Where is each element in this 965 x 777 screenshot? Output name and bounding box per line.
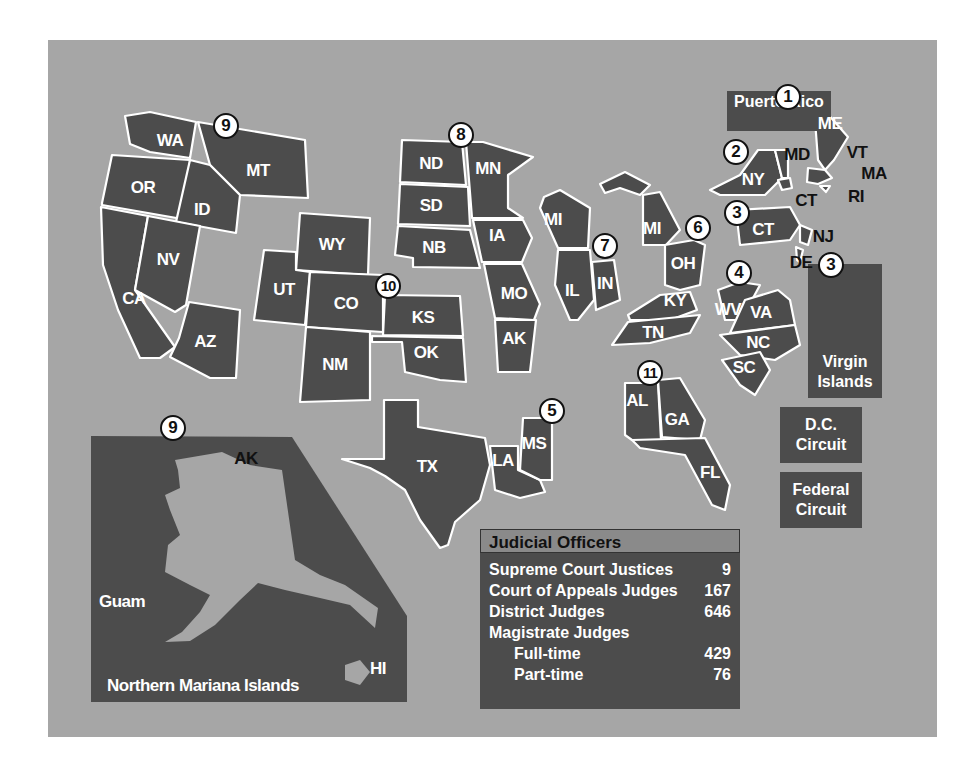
officer-row: Part-time76 <box>480 664 740 685</box>
officer-count: 76 <box>713 664 731 685</box>
officer-label: Part-time <box>514 664 583 685</box>
state-label: KS <box>412 308 435 328</box>
state-label: TX <box>417 457 438 477</box>
state-label: AL <box>626 391 648 411</box>
virgin-islands-box: Virgin Islands <box>808 264 882 398</box>
judicial-officers-title: Judicial Officers <box>480 529 740 553</box>
state-label: SD <box>420 196 443 216</box>
state-label: Guam <box>99 592 145 612</box>
officer-row: Full-time429 <box>480 643 740 664</box>
state-label: ID <box>194 200 210 220</box>
circuit-number-marker: 7 <box>592 233 618 259</box>
officer-label: Magistrate Judges <box>489 622 629 643</box>
circuit-number-marker: 1 <box>775 84 801 110</box>
state-label: NC <box>746 333 770 353</box>
officer-label: Full-time <box>514 643 581 664</box>
circuit-number-marker: 9 <box>160 415 186 441</box>
officer-count: 167 <box>704 580 731 601</box>
state-label: UT <box>273 280 295 300</box>
state-label: MN <box>475 159 500 179</box>
state-label: LA <box>492 451 514 471</box>
state-label: Northern Mariana Islands <box>107 676 299 696</box>
virgin-islands-label: Virgin Islands <box>814 352 876 392</box>
state-label: OR <box>131 178 156 198</box>
judicial-officers-table: Judicial Officers Supreme Court Justices… <box>480 529 740 709</box>
officer-row: Magistrate Judges <box>480 622 740 643</box>
state-label: SC <box>733 358 756 378</box>
officer-label: District Judges <box>489 601 605 622</box>
state-label: AZ <box>194 332 216 352</box>
circuit-number-marker: 3 <box>724 200 750 226</box>
circuit-number-marker: 3 <box>818 252 844 278</box>
state-label: MO <box>501 284 527 304</box>
state-label: GA <box>665 410 690 430</box>
callout-label: AK <box>234 449 258 469</box>
circuit-number-marker: 11 <box>637 360 663 386</box>
officer-count: 9 <box>722 559 731 580</box>
state-label: MI <box>544 210 562 230</box>
circuit-number-marker: 6 <box>685 215 711 241</box>
state-label: KY <box>664 291 687 311</box>
callout-label: DE <box>790 253 813 273</box>
state-label: ME <box>818 114 843 134</box>
state-label: NV <box>157 250 180 270</box>
state-label: CO <box>334 294 359 314</box>
officer-row: District Judges646 <box>480 601 740 622</box>
alaska-hawaii-inset <box>91 436 407 702</box>
circuit-number-marker: 10 <box>375 273 401 299</box>
state-label: CA <box>122 289 146 309</box>
callout-label: RI <box>848 187 864 207</box>
officer-count: 429 <box>704 643 731 664</box>
state-label: IN <box>597 274 613 294</box>
dc-circuit-box: D.C. Circuit <box>780 407 862 463</box>
officer-row: Court of Appeals Judges167 <box>480 580 740 601</box>
circuit-number-marker: 9 <box>213 113 239 139</box>
state-label: MI <box>643 219 661 239</box>
callout-label: MD <box>784 145 809 165</box>
state-label: MS <box>522 434 547 454</box>
circuit-number-marker: 5 <box>539 398 565 424</box>
federal-circuit-box: Federal Circuit <box>780 472 862 528</box>
officer-label: Court of Appeals Judges <box>489 580 678 601</box>
callout-label: VT <box>847 143 868 163</box>
state-label: WV <box>715 300 741 320</box>
state-label: FL <box>700 463 720 483</box>
state-label: AK <box>502 329 526 349</box>
callout-label: NJ <box>813 227 834 247</box>
callout-label: MA <box>861 164 886 184</box>
callout-label: CT <box>795 191 817 211</box>
state-label: ND <box>419 154 443 174</box>
federal-circuit-label: Federal Circuit <box>788 480 854 520</box>
state-label: CT <box>752 220 774 240</box>
state-label: TN <box>642 323 664 343</box>
dc-circuit-label: D.C. Circuit <box>791 415 851 455</box>
circuit-number-marker: 2 <box>723 139 749 165</box>
state-label: NB <box>422 238 446 258</box>
officer-row: Supreme Court Justices9 <box>480 559 740 580</box>
officer-count: 646 <box>704 601 731 622</box>
fifth-circuit-states <box>342 400 552 548</box>
state-label: NY <box>742 170 765 190</box>
state-label: NM <box>322 355 347 375</box>
state-label: VA <box>750 303 771 323</box>
state-label: WA <box>157 131 183 151</box>
state-label: WY <box>319 235 345 255</box>
state-label: OH <box>671 254 696 274</box>
state-label: MT <box>246 161 270 181</box>
officer-label: Supreme Court Justices <box>489 559 673 580</box>
circuit-number-marker: 4 <box>726 260 752 286</box>
state-label: HI <box>370 659 386 679</box>
circuit-number-marker: 8 <box>448 122 474 148</box>
state-label: IL <box>565 281 579 301</box>
state-label: IA <box>489 226 505 246</box>
state-label: OK <box>414 343 439 363</box>
